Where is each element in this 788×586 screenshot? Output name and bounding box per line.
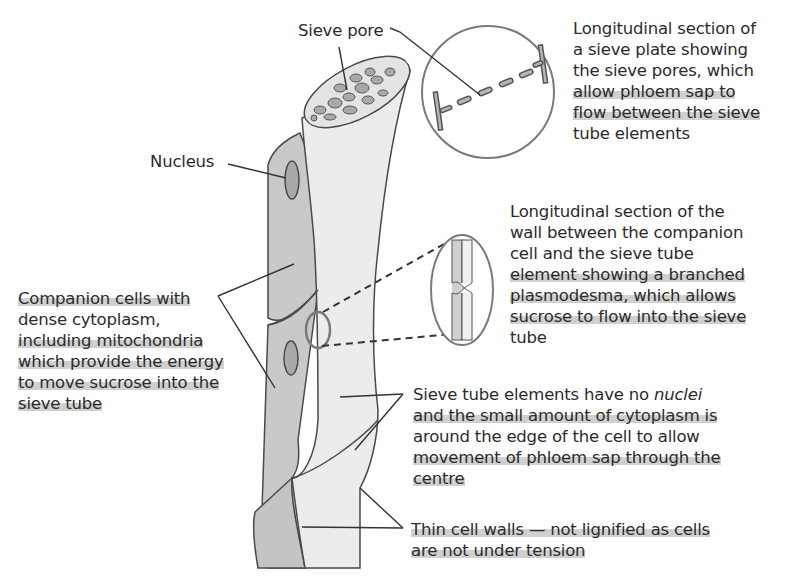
leader-wall-1 [302,527,403,528]
sieve-tube-elements-caption: Sieve tube elements have no nuclei and t… [413,384,721,489]
companion-cells-caption: Companion cells with dense cytoplasm, in… [18,288,224,414]
sieve-plate-caption: Longitudinal section of a sieve plate sh… [573,18,760,144]
nucleus-lower [284,341,298,375]
leader-wall-2 [360,488,403,528]
plasmodesma-caption: Longitudinal section of the wall between… [510,201,746,348]
sieve-pore-label: Sieve pore [298,20,384,41]
thin-walls-caption: Thin cell walls — not lignified as cells… [411,519,710,561]
nucleus-upper [285,161,299,199]
nucleus-label: Nucleus [150,151,214,172]
leader-companion-2 [218,296,275,388]
